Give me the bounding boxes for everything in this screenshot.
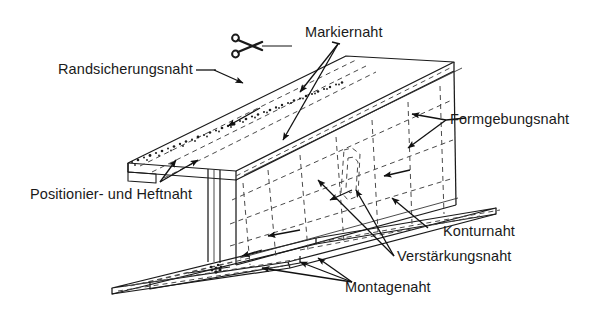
leader-extra-d <box>268 230 300 236</box>
leader-markiernaht-b <box>283 44 338 140</box>
scissors-icon <box>232 35 292 58</box>
leader-markiernaht-a <box>300 44 338 92</box>
weld-seam-diagram: Randsicherungsnaht Markiernaht Formgebun… <box>0 0 601 309</box>
leader-randsicherungsnaht <box>214 70 243 83</box>
label-formgebungsnaht: Formgebungsnaht <box>450 112 569 127</box>
label-verstaerkungsnaht: Verstärkungsnaht <box>397 249 511 264</box>
label-markiernaht: Markiernaht <box>305 25 383 40</box>
leader-formgebungsnaht-b <box>408 120 446 148</box>
leader-konturnaht <box>392 198 428 228</box>
label-positionier-und-heftnaht: Positionier- und Heftnaht <box>30 187 192 202</box>
leader-extra-c <box>384 170 410 176</box>
label-randsicherungsnaht: Randsicherungsnaht <box>58 62 193 77</box>
leader-heftnaht-a <box>160 160 176 182</box>
label-montagenaht: Montagenaht <box>345 280 431 295</box>
weld-bead-stipple <box>131 81 343 166</box>
label-konturnaht: Konturnaht <box>443 224 515 239</box>
leader-heftnaht-b <box>160 160 198 182</box>
leader-montagenaht-c <box>262 268 352 282</box>
